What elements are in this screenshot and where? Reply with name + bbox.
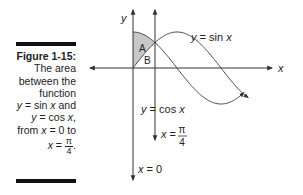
region-b-label: B (144, 55, 151, 66)
graph: y x A B y = sin x y = cos x x = π 4 x = … (0, 0, 303, 195)
label-text: = (167, 128, 176, 140)
pi-numerator: π (179, 124, 186, 135)
label-var: x (225, 31, 232, 43)
region-a-label: A (139, 43, 146, 54)
x-axis-label: x (277, 62, 284, 74)
pi-over-4-label: x = (160, 128, 176, 140)
label-text: = cos (147, 103, 180, 115)
label-text: = sin (197, 31, 227, 43)
label-text: = 0 (144, 163, 163, 175)
four-denominator: 4 (179, 137, 185, 148)
label-var: x (178, 103, 185, 115)
cos-label: y = cos x (140, 103, 185, 115)
sin-label: y = sin x (190, 31, 232, 43)
y-axis-label: y (120, 12, 128, 24)
x-zero-label: x = 0 (137, 163, 162, 175)
